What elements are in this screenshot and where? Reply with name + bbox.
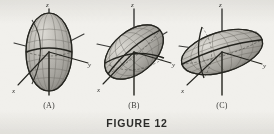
axis-label-z-a: z <box>45 1 49 9</box>
panel-label-a: (A) <box>2 101 96 110</box>
panel-c-diagram: z y x <box>172 0 272 102</box>
panel-label-c: (C) <box>172 101 272 110</box>
axis-label-y-c: y <box>262 62 267 70</box>
panel-a: z y x (A) <box>2 0 96 110</box>
panel-c: z y x (C) <box>172 0 272 110</box>
figure-container: z y x (A) <box>0 0 274 134</box>
panel-a-diagram: z y x <box>2 0 96 102</box>
axis-label-x-a: x <box>11 87 16 95</box>
panel-b-diagram: z y x <box>88 0 180 102</box>
axis-label-z-b: z <box>130 1 134 9</box>
axis-label-x-c: x <box>180 87 185 95</box>
panel-row: z y x (A) <box>0 0 274 110</box>
axis-label-z-c: z <box>218 1 222 9</box>
figure-caption: FIGURE 12 <box>0 117 274 129</box>
panel-b: z y x (B) <box>88 0 180 110</box>
axis-label-x-b: x <box>96 86 101 94</box>
panel-label-b: (B) <box>88 101 180 110</box>
